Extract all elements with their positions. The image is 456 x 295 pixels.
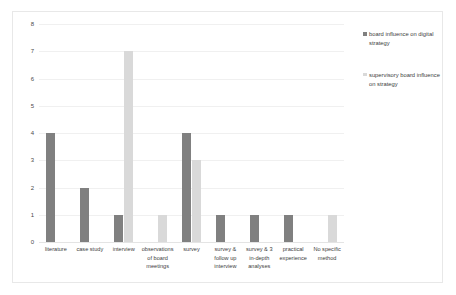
bar-group	[242, 24, 276, 242]
bar-group	[73, 24, 107, 242]
bar-group	[276, 24, 310, 242]
x-axis-label: No specific method	[310, 245, 344, 271]
chart-container: 012345678 literaturecase studyinterviewo…	[12, 11, 443, 283]
y-axis-tick-label: 7	[31, 48, 34, 54]
y-axis-tick-label: 6	[31, 76, 34, 82]
bar-group	[310, 24, 344, 242]
bar	[284, 215, 293, 242]
y-axis-tick-label: 8	[31, 21, 34, 27]
y-axis-tick-label: 2	[31, 185, 34, 191]
bar	[158, 215, 167, 242]
y-axis-tick-label: 4	[31, 130, 34, 136]
bar	[80, 188, 89, 243]
y-axis-tick-label: 1	[31, 212, 34, 218]
legend-label: board influence on digital strategy	[369, 30, 441, 49]
x-axis-label: practical experience	[276, 245, 310, 271]
gridline	[39, 242, 344, 243]
bar	[192, 160, 201, 242]
bar	[250, 215, 259, 242]
bar	[216, 215, 225, 242]
bar-series-group	[39, 24, 344, 242]
x-axis-label: survey & 3 in-depth analyses	[242, 245, 276, 271]
legend-entry: board influence on digital strategy	[363, 30, 441, 49]
x-axis-label: interview	[107, 245, 141, 271]
y-axis-tick-label: 3	[31, 157, 34, 163]
bar-group	[141, 24, 175, 242]
bar	[182, 133, 191, 242]
y-axis-tick-label: 5	[31, 103, 34, 109]
x-axis-label: case study	[73, 245, 107, 271]
bar-group	[39, 24, 73, 242]
legend-swatch-icon	[363, 73, 367, 77]
x-axis-label: literature	[39, 245, 73, 271]
bar-group	[208, 24, 242, 242]
x-axis-label: observations of board meetings	[141, 245, 175, 271]
bar-group	[175, 24, 209, 242]
x-axis-label: survey	[175, 245, 209, 271]
bar	[328, 215, 337, 242]
bar	[124, 51, 133, 242]
x-axis-category-labels: literaturecase studyinterviewobservation…	[39, 245, 344, 271]
bar	[114, 215, 123, 242]
y-axis-tick-label: 0	[31, 239, 34, 245]
bar-group	[107, 24, 141, 242]
plot-area: 012345678	[39, 24, 344, 242]
legend-entry: supervisory board influence on strategy	[363, 71, 441, 90]
bar	[46, 133, 55, 242]
x-axis-label: survey & follow up interview	[208, 245, 242, 271]
legend-swatch-icon	[363, 32, 367, 36]
chart-legend: board influence on digital strategysuper…	[363, 30, 441, 111]
legend-label: supervisory board influence on strategy	[369, 71, 441, 90]
